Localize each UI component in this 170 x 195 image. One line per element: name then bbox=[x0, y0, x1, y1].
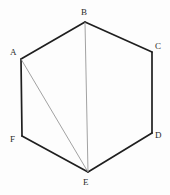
hexagon-edge-fa bbox=[21, 59, 22, 136]
hexagon-edge-ab bbox=[21, 22, 85, 59]
hexagon-edge-de bbox=[88, 133, 152, 172]
hexagon-diagonal-be bbox=[85, 22, 88, 172]
hexagon-diagonals bbox=[21, 22, 88, 172]
hexagon-diagram-canvas bbox=[0, 0, 170, 195]
hexagon-edge-ef bbox=[22, 136, 88, 172]
vertex-label-a: A bbox=[10, 48, 17, 57]
vertex-label-c: C bbox=[155, 42, 161, 51]
hexagon-diagonal-ae bbox=[21, 59, 88, 172]
vertex-label-b: B bbox=[81, 8, 87, 17]
vertex-label-e: E bbox=[83, 178, 89, 187]
hexagon-edge-bc bbox=[85, 22, 152, 52]
vertex-label-f: F bbox=[10, 135, 15, 144]
hexagon-figure: ABCDEF bbox=[0, 0, 170, 195]
vertex-label-d: D bbox=[155, 131, 162, 140]
